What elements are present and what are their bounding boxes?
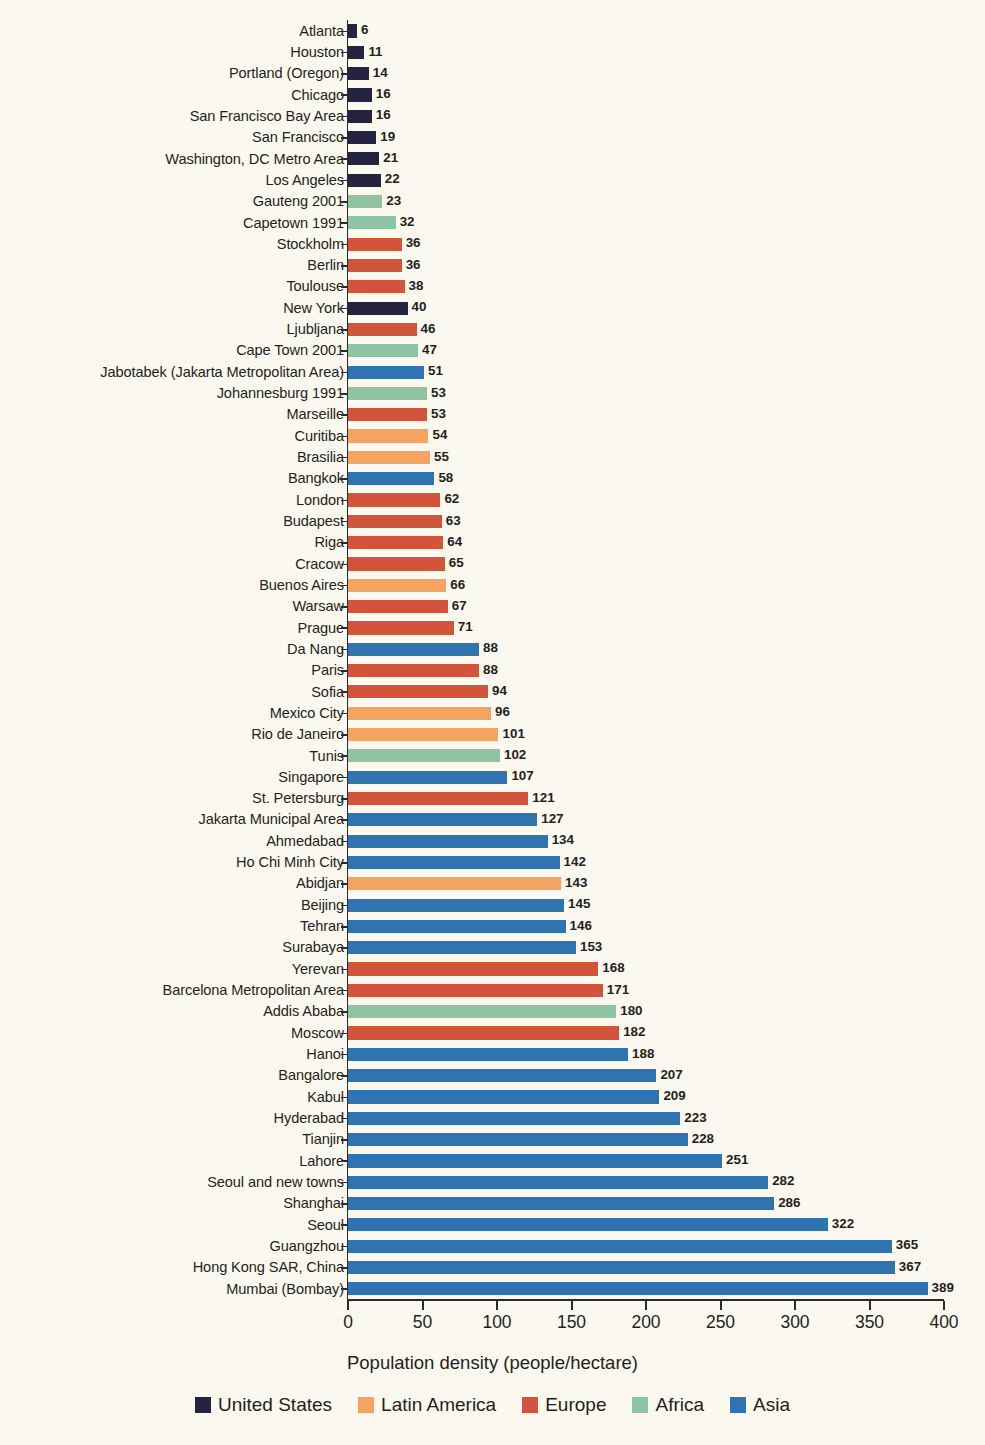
plot-area: Atlanta6Houston11Portland (Oregon)14Chic… — [0, 0, 985, 1310]
bar-value-label: 55 — [434, 450, 449, 464]
bar-row: Tehran146 — [0, 915, 985, 937]
bar-value-label: 102 — [504, 748, 526, 762]
bar-row: Curitiba54 — [0, 425, 985, 447]
category-label: Sofia — [0, 685, 344, 700]
x-tick-mark — [943, 1301, 945, 1310]
bar-row: Budapest63 — [0, 510, 985, 532]
bar-value-label: 209 — [663, 1089, 685, 1103]
legend-label: Africa — [655, 1394, 704, 1416]
bar — [348, 1282, 928, 1295]
bar — [348, 344, 418, 357]
bar — [348, 1005, 616, 1018]
bar-row: Warsaw67 — [0, 596, 985, 618]
bar-row: Seoul322 — [0, 1214, 985, 1236]
bar-row: Buenos Aires66 — [0, 574, 985, 596]
bar — [348, 1069, 656, 1082]
bar — [348, 643, 479, 656]
bar-value-label: 51 — [428, 364, 443, 378]
bar-value-label: 62 — [444, 492, 459, 506]
bar — [348, 579, 446, 592]
bar — [348, 88, 372, 101]
bar — [348, 1197, 774, 1210]
bar-value-label: 16 — [376, 108, 391, 122]
bar-value-label: 53 — [431, 386, 446, 400]
bar-row: Ho Chi Minh City142 — [0, 851, 985, 873]
bar-value-label: 168 — [602, 961, 624, 975]
bar-row: Atlanta6 — [0, 20, 985, 42]
bar-value-label: 40 — [412, 300, 427, 314]
bar-value-label: 365 — [896, 1238, 918, 1252]
x-tick-mark — [422, 1301, 424, 1310]
bar-row: Tianjin228 — [0, 1129, 985, 1151]
category-label: Atlanta — [0, 24, 344, 39]
x-tick-label: 400 — [929, 1312, 958, 1332]
category-label: Mumbai (Bombay) — [0, 1282, 344, 1297]
bar — [348, 813, 537, 826]
bar-value-label: 207 — [660, 1068, 682, 1082]
category-label: Tunis — [0, 749, 344, 764]
bar-row: Mumbai (Bombay)389 — [0, 1278, 985, 1300]
bar-value-label: 367 — [899, 1260, 921, 1274]
bar-row: Surabaya153 — [0, 937, 985, 959]
bar — [348, 493, 440, 506]
legend-swatch-icon — [195, 1397, 211, 1413]
bar-value-label: 180 — [620, 1004, 642, 1018]
bar-value-label: 53 — [431, 407, 446, 421]
bar-value-label: 16 — [376, 87, 391, 101]
category-label: Singapore — [0, 770, 344, 785]
bar-value-label: 153 — [580, 940, 602, 954]
category-label: New York — [0, 301, 344, 316]
bar — [348, 1176, 768, 1189]
bar-value-label: 32 — [400, 215, 415, 229]
bar-row: Seoul and new towns282 — [0, 1171, 985, 1193]
bar-row: Los Angeles22 — [0, 169, 985, 191]
x-tick-label: 350 — [855, 1312, 884, 1332]
bar-row: Sofia94 — [0, 681, 985, 703]
x-tick-mark — [794, 1301, 796, 1310]
bar-value-label: 47 — [422, 343, 437, 357]
bar-row: Abidjan143 — [0, 873, 985, 895]
category-label: Jabotabek (Jakarta Metropolitan Area) — [0, 365, 344, 380]
bar-value-label: 71 — [458, 620, 473, 634]
legend-swatch-icon — [632, 1397, 648, 1413]
population-density-bar-chart: Atlanta6Houston11Portland (Oregon)14Chic… — [0, 0, 985, 1445]
bar — [348, 962, 598, 975]
bar-value-label: 46 — [421, 322, 436, 336]
x-tick-mark — [645, 1301, 647, 1310]
category-label: Prague — [0, 621, 344, 636]
x-tick-label: 150 — [557, 1312, 586, 1332]
bar-value-label: 66 — [450, 578, 465, 592]
x-tick-label: 250 — [706, 1312, 735, 1332]
bar-row: New York40 — [0, 297, 985, 319]
bar-row: Cape Town 200147 — [0, 340, 985, 362]
bar — [348, 749, 500, 762]
category-label: Hong Kong SAR, China — [0, 1260, 344, 1275]
bar — [348, 685, 488, 698]
x-tick-mark — [571, 1301, 573, 1310]
bar-row: Lahore251 — [0, 1150, 985, 1172]
category-label: Moscow — [0, 1026, 344, 1041]
category-label: Jakarta Municipal Area — [0, 812, 344, 827]
category-label: Cape Town 2001 — [0, 343, 344, 358]
bar-value-label: 36 — [406, 236, 421, 250]
bar-value-label: 63 — [446, 514, 461, 528]
bar-value-label: 36 — [406, 258, 421, 272]
bar-value-label: 322 — [832, 1217, 854, 1231]
x-axis-title: Population density (people/hectare) — [0, 1352, 985, 1374]
bar — [348, 621, 454, 634]
bar-row: Ahmedabad134 — [0, 830, 985, 852]
bar-value-label: 171 — [607, 983, 629, 997]
bar — [348, 835, 548, 848]
category-label: Mexico City — [0, 706, 344, 721]
category-label: Seoul and new towns — [0, 1175, 344, 1190]
category-label: Houston — [0, 45, 344, 60]
bar-row: Ljubljana46 — [0, 318, 985, 340]
category-label: San Francisco Bay Area — [0, 109, 344, 124]
x-tick-label: 0 — [343, 1312, 353, 1332]
bar-row: Capetown 199132 — [0, 212, 985, 234]
legend-swatch-icon — [522, 1397, 538, 1413]
bar-row: Hanoi188 — [0, 1043, 985, 1065]
bar-row: Prague71 — [0, 617, 985, 639]
bar — [348, 67, 369, 80]
legend-swatch-icon — [730, 1397, 746, 1413]
